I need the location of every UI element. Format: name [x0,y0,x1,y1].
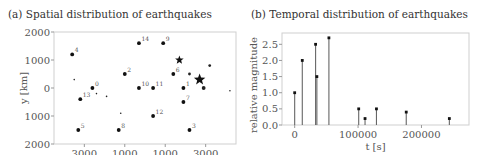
stem-marker [357,107,360,110]
star-marker-icon [175,56,184,64]
earthquake-point [117,128,121,132]
earthquake-point-label: 9 [166,35,170,42]
earthquake-point-label: 13 [83,91,91,98]
spatial-chart-panel: (a) Spatial distribution of earthquakes … [0,0,245,155]
earthquake-point [182,86,186,90]
stem-marker [375,107,378,110]
earthquake-point-label: 8 [121,122,125,129]
earthquake-point [151,86,155,90]
y-tick-label: 1000 [25,111,50,122]
earthquake-point-label: 5 [81,122,85,129]
earthquake-point [120,112,122,114]
earthquake-point-label: 11 [156,80,164,87]
temporal-chart-panel: (b) Temporal distribution of earthquakes… [245,0,491,155]
plot-frame [282,33,469,125]
earthquake-point [208,64,211,67]
earthquake-point [91,86,95,90]
earthquake-point-label: 1 [186,80,190,87]
earthquake-point [96,93,98,95]
earthquake-point [73,79,75,81]
earthquake-point [182,100,186,104]
y-tick-label: 0.0 [262,120,278,131]
y-tick-label: 2.0 [262,55,278,66]
stem-marker [314,43,317,46]
stem-marker [405,111,408,114]
temporal-stem-plot: 0.00.51.01.52.02.50100000200000t [s]rela… [245,0,491,155]
earthquake-point [188,73,191,76]
x-axis-label: t [s] [365,141,385,152]
stem-marker [315,75,318,78]
y-tick-label: 2000 [25,139,50,150]
earthquake-point-label: 7 [186,94,190,101]
earthquake-point [229,90,231,92]
earthquake-point-label: 0 [95,80,99,87]
earthquake-point-label: 14 [141,35,149,42]
earthquake-point [161,41,165,45]
x-tick-label: 200000 [402,129,440,140]
x-tick-label: 0 [291,129,297,140]
y-tick-label: 1.0 [262,87,278,98]
stem-marker [293,91,296,94]
earthquake-point [151,114,155,118]
y-tick-label: 0 [44,83,50,94]
earthquake-point [123,72,127,76]
y-tick-label: 2000 [25,27,50,38]
earthquake-point [70,53,74,57]
earthquake-point [76,128,80,132]
y-tick-label: 0.5 [262,103,278,114]
earthquake-point-label: 10 [141,80,149,87]
earthquake-point [202,86,206,90]
stem-marker [328,36,331,39]
y-axis-label: y [km] [18,72,29,105]
earthquake-point [137,86,141,90]
earthquake-point-label: 12 [156,108,164,115]
y-tick-label: 2.5 [262,39,278,50]
earthquake-point-label: 3 [192,122,196,129]
stem-marker [364,117,367,120]
spatial-scatter-plot: 200010000100020003000100010003000x [km]y… [0,0,245,155]
earthquake-point [78,97,82,101]
x-tick-label: 3000 [193,148,218,155]
earthquake-point [188,128,192,132]
earthquake-point [106,96,108,98]
earthquake-point-label: 2 [127,66,131,73]
earthquake-point [137,41,141,45]
y-axis-label: relative magnitude [248,37,259,133]
earthquake-point-label: 6 [176,66,180,73]
x-tick-label: 1000 [112,148,137,155]
star-marker-icon [194,74,205,85]
x-tick-label: 1000 [152,148,177,155]
earthquake-point-label: 4 [75,46,79,53]
earthquake-point [171,72,175,76]
y-tick-label: 1000 [25,55,50,66]
stem-marker [301,59,304,62]
x-tick-label: 100000 [339,129,377,140]
y-tick-label: 1.5 [262,71,278,82]
stem-marker [448,117,451,120]
x-tick-label: 3000 [72,148,97,155]
